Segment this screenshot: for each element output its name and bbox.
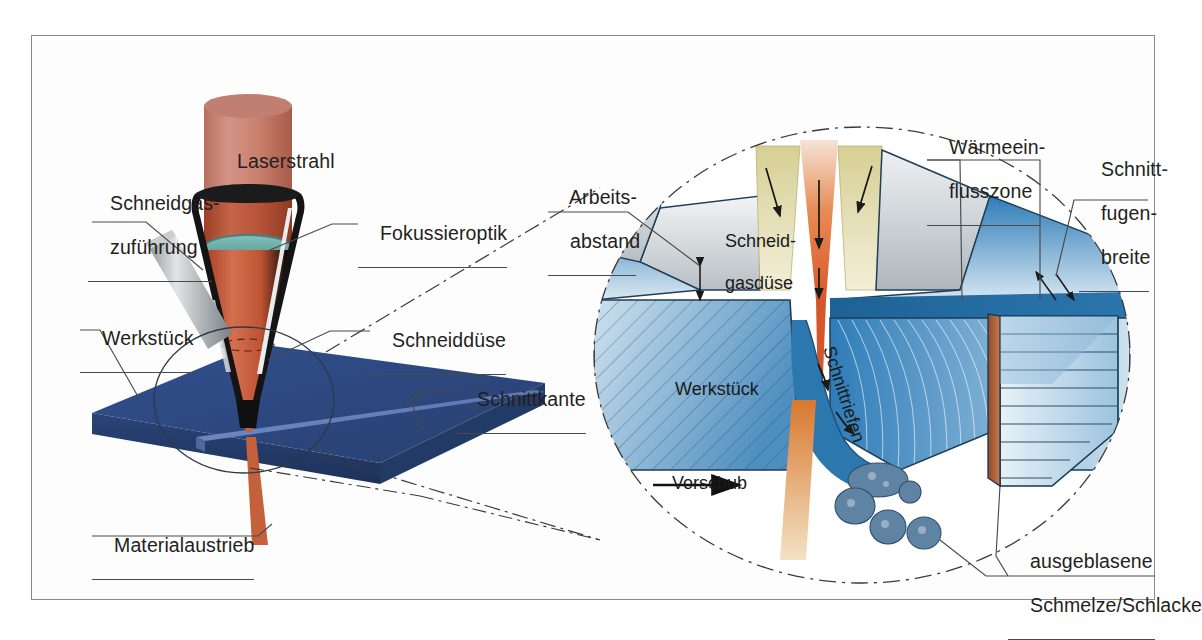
label-arbeitsabstand: Arbeits- abstand (548, 164, 636, 276)
label-laserstrahl: Laserstrahl (215, 128, 335, 194)
label-ausgeblasene-schmelze: ausgeblasene Schmelze/Schlacke (1008, 528, 1155, 640)
label-vorschub: Vorschub (652, 452, 747, 515)
label-waermeeinflusszone: Wärmeein- flusszone (927, 114, 1040, 226)
label-werkstueck-detail: Werkstück (655, 358, 759, 421)
label-fokussieroptik: Fokussieroptik (358, 200, 507, 268)
label-schneidgaszufuehrung: Schneidgas- zuführung (88, 170, 212, 282)
label-schnittfugenbreite: Schnitt- fugen- breite (1079, 136, 1149, 292)
label-materialaustrieb: Materialaustrieb (92, 512, 254, 580)
label-werkstueck-left: Werkstück (80, 305, 194, 373)
label-schneidduese: Schneiddüse (370, 307, 506, 375)
label-schneidgasduese: Schneid- gasdüse (705, 210, 796, 315)
label-schnittkante: Schnittkante (455, 366, 586, 434)
